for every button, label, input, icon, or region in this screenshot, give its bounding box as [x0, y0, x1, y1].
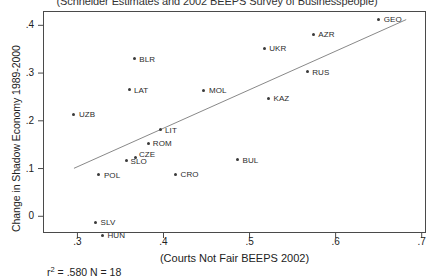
data-point-label: LAT	[134, 86, 148, 95]
data-point-label: LIT	[165, 126, 177, 135]
data-point-marker	[101, 234, 104, 237]
data-point-label: GEO	[384, 15, 402, 24]
scatter-plot-figure: (Schneider Estimates and 2002 BEEPS Surv…	[0, 0, 434, 278]
data-point-label: CRO	[181, 170, 199, 179]
r-squared-annotation: r2 = .580 N = 18	[47, 264, 121, 278]
data-point-marker	[263, 47, 266, 50]
data-point-label: UZB	[79, 110, 95, 119]
data-point-label: BLR	[139, 55, 155, 64]
data-point-marker	[312, 33, 315, 36]
data-point-marker	[377, 18, 380, 21]
y-tick-label: 0	[12, 210, 34, 221]
x-tick-label: .6	[324, 236, 348, 247]
data-point-label: ROM	[153, 139, 172, 148]
data-point-label: UKR	[269, 44, 286, 53]
axis-ticks	[38, 25, 422, 238]
x-tick-label: .7	[410, 236, 434, 247]
data-point-marker	[94, 221, 97, 224]
r-squared-text: r2 = .580 N = 18	[47, 266, 121, 278]
x-tick-label: .4	[151, 236, 175, 247]
data-point-label: SLV	[101, 218, 116, 227]
regression-line	[74, 20, 406, 169]
data-point-label: HUN	[107, 231, 125, 240]
data-point-marker	[159, 128, 162, 131]
data-point-label: AZR	[318, 30, 334, 39]
y-tick-label: .3	[12, 67, 34, 78]
data-point-label: POL	[104, 171, 120, 180]
data-point-label: KAZ	[273, 94, 289, 103]
x-tick-label: .3	[65, 236, 89, 247]
data-point-label: CZE	[139, 150, 155, 159]
data-point-marker	[174, 173, 177, 176]
data-point-marker	[267, 97, 270, 100]
data-point-label: RUS	[312, 68, 329, 77]
y-tick-label: .2	[12, 115, 34, 126]
x-tick-label: .5	[238, 236, 262, 247]
y-tick-label: .4	[12, 19, 34, 30]
data-point-label: MOL	[209, 86, 227, 95]
y-tick-label: .1	[12, 163, 34, 174]
data-point-label: BUL	[243, 156, 259, 165]
